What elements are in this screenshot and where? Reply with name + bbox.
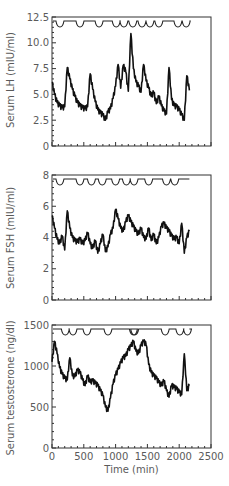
- x-tick-label: 1000: [103, 451, 128, 462]
- axes: 05001000150005001000150020002500Time (mi…: [5, 320, 224, 476]
- y-tick-label: 500: [30, 402, 49, 413]
- x-tick-label: 2000: [166, 451, 191, 462]
- x-tick-label: 1500: [135, 451, 160, 462]
- x-tick-label: 500: [74, 451, 93, 462]
- testosterone-chart: 05001000150005001000150020002500Time (mi…: [0, 310, 229, 486]
- y-axis-label: Serum FSH (mIU/ml): [5, 187, 16, 289]
- lh-chart: 02.55.07.510.012.5Serum LH (mIU/ml): [0, 0, 229, 160]
- y-tick-label: 2.5: [33, 115, 49, 126]
- x-tick-label: 2500: [198, 451, 223, 462]
- lh-panel: 02.55.07.510.012.5Serum LH (mIU/ml): [0, 0, 229, 160]
- y-tick-label: 5.0: [33, 89, 49, 100]
- y-tick-label: 1500: [24, 320, 49, 331]
- y-tick-label: 12.5: [27, 12, 49, 23]
- y-tick-label: 10.0: [27, 37, 49, 48]
- data-line: [52, 340, 189, 412]
- y-axis-label: Serum LH (mIU/ml): [5, 32, 16, 128]
- y-tick-label: 4: [43, 232, 49, 243]
- axes: 02.55.07.510.012.5Serum LH (mIU/ml): [5, 12, 211, 152]
- data-line: [52, 209, 189, 253]
- y-tick-label: 6: [43, 201, 49, 212]
- y-axis-label: Serum testosterone (ng/dl): [5, 320, 16, 455]
- event-marker-trace: [53, 21, 190, 27]
- y-tick-label: 2: [43, 263, 49, 274]
- fsh-panel: 02468Serum FSH (mIU/ml): [0, 160, 229, 310]
- fsh-chart: 02468Serum FSH (mIU/ml): [0, 160, 229, 310]
- x-tick-label: 0: [49, 451, 55, 462]
- event-marker-trace: [53, 329, 191, 335]
- testosterone-panel: 05001000150005001000150020002500Time (mi…: [0, 310, 229, 486]
- y-tick-label: 8: [43, 170, 49, 181]
- event-marker-trace: [53, 179, 189, 185]
- y-tick-label: 0: [43, 295, 49, 306]
- y-tick-label: 0: [43, 141, 49, 152]
- data-line: [52, 34, 189, 121]
- y-tick-label: 1000: [24, 361, 49, 372]
- x-axis-label: Time (min): [103, 464, 158, 475]
- y-tick-label: 7.5: [33, 63, 49, 74]
